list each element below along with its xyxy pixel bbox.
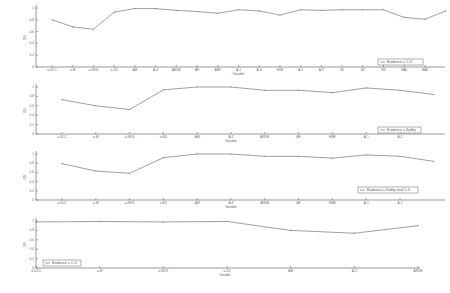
legend: Evidence = Ksdhy and C-V <box>358 187 418 193</box>
data-point <box>264 156 265 157</box>
data-point <box>35 221 36 222</box>
x-tick-label: AF <box>297 201 301 205</box>
data-point <box>342 9 343 10</box>
data-point <box>298 90 299 91</box>
data-point <box>399 156 400 157</box>
x-tick-label: a-ZD <box>111 68 119 72</box>
data-point <box>366 154 367 155</box>
x-tick-label: B1 <box>340 68 344 72</box>
y-tick-label: 0.2 <box>30 123 35 127</box>
data-point <box>95 170 96 171</box>
legend-text: Evidence = C-V <box>387 60 413 64</box>
x-tick-label: a-ED <box>160 135 168 139</box>
y-tick-label: 0.6 <box>30 170 35 174</box>
x-tick-label: a-NVG <box>125 135 135 139</box>
data-point <box>197 86 198 87</box>
data-point <box>354 233 355 234</box>
data-point <box>230 86 231 87</box>
x-tick-label: a-DCC <box>47 68 57 72</box>
data-series-line <box>36 221 418 233</box>
data-point <box>51 19 52 20</box>
data-point <box>238 9 239 10</box>
data-point <box>362 9 363 10</box>
x-tick-label: a-NVG <box>125 201 135 205</box>
y-tick-label: 0 <box>32 132 34 136</box>
legend-text: Evidence = Ksdhy and C-V <box>367 188 411 192</box>
data-point <box>290 230 291 231</box>
data-point <box>332 92 333 93</box>
y-tick-label: 0.4 <box>30 180 35 184</box>
y-tick-label: 1 <box>32 152 34 156</box>
data-point <box>197 153 198 154</box>
y-tick-label: 0.2 <box>30 189 35 193</box>
legend: Evidence = Ksdhy <box>378 127 421 133</box>
y-tick-label: 0.4 <box>30 247 35 251</box>
x-tick-label: a-DCC <box>57 135 67 139</box>
data-point <box>163 157 164 158</box>
y-tick-label: 0 <box>32 198 34 202</box>
data-point <box>196 11 197 12</box>
x-tick-label: HAL <box>401 68 407 72</box>
y-tick-label: 0.6 <box>30 104 35 108</box>
data-point <box>445 10 446 11</box>
y-tick-label: 0.8 <box>30 18 35 22</box>
x-tick-label: a-M <box>93 135 99 139</box>
x-tick-label: A-Z <box>352 269 357 273</box>
x-axis-label: Variable <box>233 72 245 76</box>
x-tick-label: a-M <box>93 201 99 205</box>
data-point <box>176 10 177 11</box>
x-tick-label: A-1 <box>364 201 369 205</box>
y-tick-label: 0.2 <box>30 53 35 57</box>
x-tick-label: ARDB <box>260 135 269 139</box>
data-point <box>366 87 367 88</box>
y-tick-label: 1 <box>32 85 34 89</box>
data-point <box>230 153 231 154</box>
x-tick-label: AM <box>195 201 200 205</box>
y-tick-label: 1 <box>32 219 34 223</box>
y-tick-label: 0.6 <box>30 238 35 242</box>
y-tick-label: 0.4 <box>30 41 35 45</box>
x-tick-label: AF <box>195 68 199 72</box>
data-point <box>399 90 400 91</box>
data-point <box>321 10 322 11</box>
data-point <box>72 26 73 27</box>
data-point <box>424 19 425 20</box>
data-point <box>134 8 135 9</box>
data-point <box>298 156 299 157</box>
chart-svg: 00.20.40.60.81ORa-DCCa-Ma-NVGa-ZDAMA-ZAR… <box>0 0 450 293</box>
x-tick-label: A-S <box>257 68 262 72</box>
data-series-line <box>52 9 446 30</box>
chart-panel-3: 00.20.40.60.81ORa-DCCa-Ma-NVGa-EDAMA-ZAR… <box>23 151 445 209</box>
x-tick-label: HBB <box>329 201 336 205</box>
x-tick-label: AM <box>288 269 293 273</box>
legend: Evidence = C-V <box>43 260 81 266</box>
x-tick-label: a-M <box>70 68 76 72</box>
y-tick-label: 1 <box>32 6 34 10</box>
y-tick-label: 0.8 <box>30 94 35 98</box>
x-tick-label: B2 <box>361 68 365 72</box>
x-tick-label: A-Z <box>153 68 158 72</box>
x-tick-label: A-1 <box>364 135 369 139</box>
x-axis-label: Variable <box>225 139 237 143</box>
data-point <box>383 9 384 10</box>
data-point <box>99 221 100 222</box>
data-point <box>433 161 434 162</box>
y-tick-label: 0.8 <box>30 228 35 232</box>
x-tick-label: a-NVG <box>89 68 99 72</box>
x-tick-label: a-NVG <box>158 269 168 273</box>
chart-panel-4: 00.20.40.60.81ORa-DCCa-Ma-NVGa-ZDAMA-ZAR… <box>23 218 422 277</box>
y-tick-label: 0.6 <box>30 30 35 34</box>
data-point <box>129 109 130 110</box>
chart-figure: 00.20.40.60.81ORa-DCCa-Ma-NVGa-ZDAMA-ZAR… <box>0 0 450 293</box>
legend: Evidence = C-V <box>378 59 423 65</box>
x-axis-label: Variable <box>219 273 231 277</box>
x-tick-label: AF <box>297 135 301 139</box>
data-point <box>93 29 94 30</box>
y-axis-label: OR <box>23 107 27 112</box>
x-tick-label: a-DCC <box>57 201 67 205</box>
x-tick-label: HBB <box>329 135 336 139</box>
y-tick-label: 0.2 <box>30 257 35 261</box>
data-point <box>332 158 333 159</box>
data-point <box>259 10 260 11</box>
data-point <box>404 17 405 18</box>
